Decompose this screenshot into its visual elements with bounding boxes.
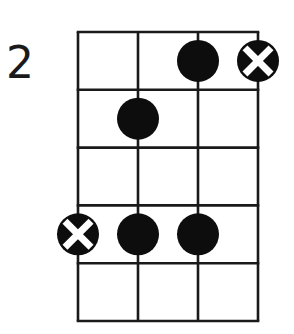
finger-dot-icon — [177, 213, 219, 255]
x-marker-icon — [237, 40, 279, 82]
fretboard-grid — [77, 32, 260, 321]
x-marker-icon — [57, 213, 99, 255]
chord-diagram: 2 — [0, 0, 294, 334]
finger-dot-icon — [117, 213, 159, 255]
finger-dot-icon — [117, 98, 159, 140]
starting-fret-label: 2 — [6, 37, 34, 88]
finger-dot-icon — [177, 40, 219, 82]
